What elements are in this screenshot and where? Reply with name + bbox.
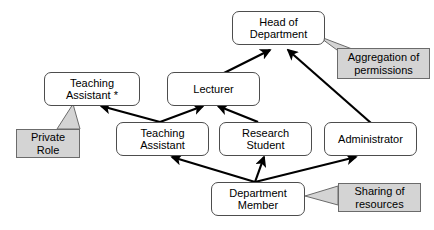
role-node-teaching-assistant[interactable]: Teaching Assistant	[116, 122, 209, 156]
edge-research-student-to-lecturer	[218, 106, 258, 122]
edge-teaching-assistant-to-private	[101, 106, 160, 122]
edge-member-to-teaching-assistant	[172, 157, 255, 182]
role-node-lecturer[interactable]: Lecturer	[167, 72, 260, 106]
callout-tail-private-role	[57, 104, 80, 129]
edge-member-to-research-student	[255, 157, 264, 182]
callout-sharing-of-resources: Sharing of resources	[338, 183, 421, 212]
role-node-head-of-department[interactable]: Head of Department	[232, 11, 325, 45]
edge-teaching-assistant-to-lecturer	[160, 106, 203, 122]
edge-member-to-administrator	[255, 157, 356, 182]
role-hierarchy-diagram: Head of DepartmentTeaching Assistant *Le…	[0, 0, 434, 230]
callout-private-role: Private Role	[16, 129, 80, 158]
edge-lecturer-to-head	[224, 50, 270, 73]
callout-tails	[57, 36, 360, 205]
role-node-research-student[interactable]: Research Student	[219, 122, 312, 156]
role-node-administrator[interactable]: Administrator	[324, 122, 417, 156]
inheritance-edges	[101, 50, 371, 182]
role-node-teaching-assistant-private[interactable]: Teaching Assistant *	[44, 72, 140, 106]
callout-aggregation-of-permissions: Aggregation of permissions	[337, 48, 430, 79]
callout-tail-sharing-of-resources	[305, 186, 338, 205]
role-node-department-member[interactable]: Department Member	[211, 182, 305, 216]
